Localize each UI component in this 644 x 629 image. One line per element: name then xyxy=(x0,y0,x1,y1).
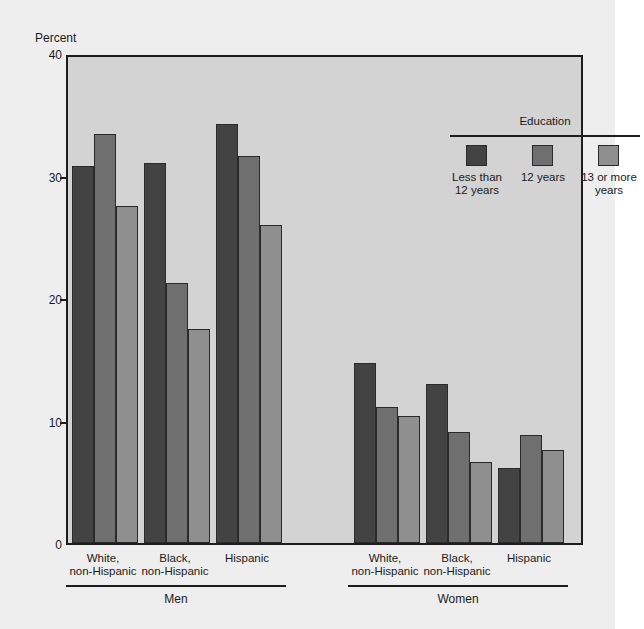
bar xyxy=(426,384,448,543)
y-tick-label: 40 xyxy=(22,48,62,62)
bar xyxy=(188,329,210,543)
bar xyxy=(116,206,138,543)
bar xyxy=(520,435,542,543)
bar xyxy=(216,124,238,543)
legend-swatch xyxy=(466,145,487,166)
legend-swatch xyxy=(532,145,553,166)
x-category-label: Hispanic xyxy=(474,552,584,565)
group-rule xyxy=(348,585,568,587)
group-rule xyxy=(66,585,286,587)
legend-label: Less than 12 years xyxy=(440,171,514,196)
bar xyxy=(166,283,188,543)
group-label: Women xyxy=(398,592,518,606)
y-tick-label: 10 xyxy=(22,416,62,430)
y-tick-label: 0 xyxy=(22,538,62,552)
legend-label: 12 years xyxy=(506,171,580,184)
legend: Education Less than 12 years12 years13 o… xyxy=(450,115,640,201)
legend-swatch xyxy=(598,145,619,166)
x-category-label: Hispanic xyxy=(192,552,302,565)
y-tick-label: 20 xyxy=(22,293,62,307)
bar xyxy=(470,462,492,543)
bar xyxy=(144,163,166,543)
y-axis-label: Percent xyxy=(35,31,76,45)
bar xyxy=(72,166,94,543)
bar xyxy=(542,450,564,543)
legend-title: Education xyxy=(450,115,640,127)
bar xyxy=(354,363,376,543)
bar xyxy=(498,468,520,543)
bar xyxy=(376,407,398,543)
bar xyxy=(94,134,116,543)
bar xyxy=(398,416,420,543)
bar xyxy=(448,432,470,543)
bar xyxy=(260,225,282,544)
y-tick-label: 30 xyxy=(22,171,62,185)
legend-label: 13 or more years xyxy=(572,171,644,196)
plot-area: Education Less than 12 years12 years13 o… xyxy=(66,55,583,545)
group-label: Men xyxy=(116,592,236,606)
legend-rule xyxy=(450,135,640,137)
bar xyxy=(238,156,260,543)
